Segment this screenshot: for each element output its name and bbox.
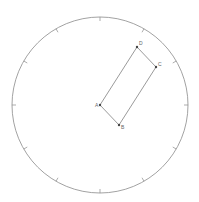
label-d: D [139,40,143,46]
label-c: C [158,61,162,67]
point-c [155,66,157,68]
geometry-canvas: ABCD [0,0,199,202]
tick-mark [173,61,176,63]
tick-mark [173,147,176,149]
tick-mark [142,29,144,32]
vertex-points: ABCD [95,40,162,130]
label-b: B [121,124,125,130]
point-b [118,124,120,126]
tick-mark [142,178,144,181]
label-a: A [95,102,99,108]
tick-mark [24,147,27,149]
rectangle-abcd [100,47,156,125]
point-d [136,46,138,48]
tick-mark [56,178,58,181]
point-a [99,104,101,106]
tick-mark [56,29,58,32]
tick-mark [24,61,27,63]
